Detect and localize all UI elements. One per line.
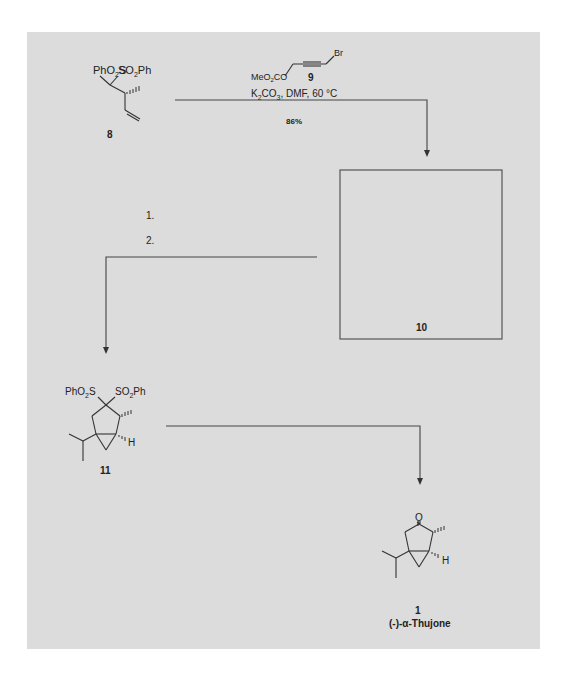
c11-phso2-label: PhO2S [65,386,96,399]
c9-br-label: Br [334,48,343,58]
arrow-step3 [166,426,423,485]
compound-8-number: 8 [107,129,113,140]
reagent-9: MeO2CO Br 9 [251,48,343,83]
step1-yield: 86% [286,117,302,126]
step2-item-2: 2. [146,235,154,246]
compound-11-number: 11 [100,465,111,476]
step2-item-1: 1. [146,210,154,221]
compound-8: PhO2S SO2Ph 8 [93,64,151,140]
reaction-scheme: PhO2S SO2Ph 8 MeO2CO Br 9 K2CO3, DMF, 60… [0,0,567,683]
compound-10-number: 10 [416,322,428,333]
c1-h-label: H [442,555,449,566]
arrow-step2 [103,257,317,354]
step1-conditions: K2CO3, DMF, 60 °C [251,88,337,101]
compound-1: O H 1 (-)-α-Th [382,512,451,629]
reagent-9-number: 9 [308,72,314,83]
c11-so2ph-label: SO2Ph [115,386,146,399]
compound-1-name: (-)-α-Thujone [389,618,451,629]
c11-h-label: H [128,437,135,448]
c1-oxygen-label: O [415,512,423,523]
compound-11: PhO2S SO2Ph H 11 [65,386,146,476]
c9-meo2co-label: MeO2CO [251,72,287,83]
arrow-step1 [175,100,430,157]
compound-10-box: 10 [340,170,502,339]
c8-so2ph-label: SO2Ph [118,64,151,78]
compound-1-number: 1 [415,605,421,616]
